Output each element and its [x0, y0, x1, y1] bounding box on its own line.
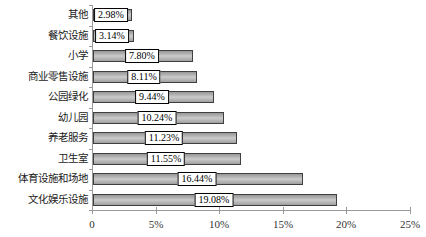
y-axis-tick: [89, 67, 92, 68]
value-label-box: 2.98%: [94, 8, 128, 22]
category-label: 养老服务: [0, 131, 88, 145]
category-label: 小学: [0, 49, 88, 63]
y-axis-tick: [89, 128, 92, 129]
bar-chart: 05%10%15%20%25%其他2.98%餐饮设施3.14%小学7.80%商业…: [0, 0, 426, 237]
x-axis-tick: [156, 207, 157, 214]
category-label: 文化娱乐设施: [0, 193, 88, 207]
y-axis-tick: [89, 169, 92, 170]
x-axis-tick-label: 25%: [400, 218, 420, 230]
y-axis-tick: [89, 46, 92, 47]
value-label-box: 3.14%: [95, 29, 129, 43]
value-label-box: 11.23%: [145, 131, 183, 145]
category-label: 卫生室: [0, 152, 88, 166]
x-axis-tick: [219, 207, 220, 214]
x-axis-tick-label: 0: [89, 218, 95, 230]
x-axis-tick: [410, 207, 411, 214]
value-label-box: 10.24%: [138, 111, 177, 125]
x-axis-tick: [283, 207, 284, 214]
y-axis-tick: [89, 5, 92, 6]
x-axis-tick-label: 5%: [149, 218, 164, 230]
category-label: 体育设施和场地: [0, 172, 88, 186]
y-axis-tick: [89, 87, 92, 88]
category-label: 餐饮设施: [0, 29, 88, 43]
category-label: 幼儿园: [0, 111, 88, 125]
x-axis-tick-label: 15%: [273, 218, 293, 230]
y-axis-tick: [89, 26, 92, 27]
value-label-box: 7.80%: [125, 49, 159, 63]
category-label: 公园绿化: [0, 90, 88, 104]
x-axis-tick: [346, 207, 347, 214]
x-axis-tick: [92, 207, 93, 214]
value-label-box: 9.44%: [135, 90, 169, 104]
x-axis-tick-label: 20%: [336, 218, 356, 230]
value-label-box: 16.44%: [178, 172, 217, 186]
value-label-box: 11.55%: [147, 152, 185, 166]
y-axis-tick: [89, 190, 92, 191]
x-axis-line: [92, 210, 411, 211]
y-axis-tick: [89, 108, 92, 109]
category-label: 商业零售设施: [0, 70, 88, 84]
x-axis-tick-label: 10%: [209, 218, 229, 230]
category-label: 其他: [0, 8, 88, 22]
value-label-box: 8.11%: [127, 70, 160, 84]
value-label-box: 19.08%: [195, 193, 234, 207]
y-axis-tick: [89, 149, 92, 150]
